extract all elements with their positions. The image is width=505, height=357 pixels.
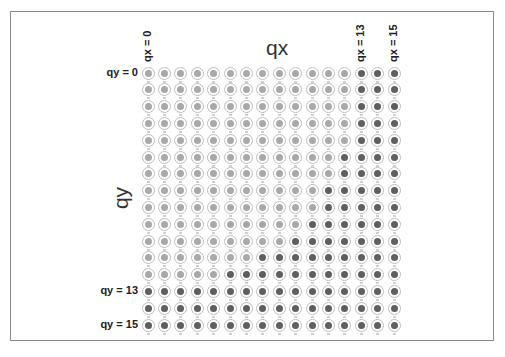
cell-index-mark: [147, 81, 150, 83]
grid-dot: [374, 271, 381, 278]
grid-dot: [292, 120, 299, 127]
cell-index-mark: [245, 232, 248, 234]
cell-index-mark: [376, 232, 379, 234]
grid-dot: [374, 170, 381, 177]
grid-cell: [289, 117, 302, 130]
cell-index-mark: [196, 148, 199, 150]
grid-cell: [338, 302, 351, 315]
grid-dot: [243, 204, 250, 211]
cell-index-mark: [245, 181, 248, 183]
grid-cell: [322, 201, 335, 214]
cell-index-mark: [327, 249, 330, 251]
cell-index-mark: [245, 333, 248, 335]
cell-index-mark: [147, 165, 150, 167]
grid-dot: [341, 103, 348, 110]
grid-cell: [338, 235, 351, 248]
grid-dot: [292, 70, 299, 77]
grid-cell: [371, 134, 384, 147]
grid-dot: [177, 238, 184, 245]
grid-cell: [306, 100, 319, 113]
grid-dot: [374, 204, 381, 211]
grid-cell: [306, 151, 319, 164]
grid-dot: [227, 204, 234, 211]
row-label: qy = 0: [68, 66, 138, 78]
cell-index-mark: [196, 215, 199, 217]
grid-dot: [325, 204, 332, 211]
cell-index-mark: [327, 181, 330, 183]
grid-dot: [276, 221, 283, 228]
grid-dot: [161, 120, 168, 127]
cell-index-mark: [360, 316, 363, 318]
cell-index-mark: [327, 131, 330, 133]
grid-dot: [243, 238, 250, 245]
grid-dot: [210, 204, 217, 211]
grid-cell: [207, 117, 220, 130]
grid-dot: [341, 238, 348, 245]
cell-index-mark: [196, 181, 199, 183]
cell-index-mark: [179, 333, 182, 335]
cell-index-mark: [163, 148, 166, 150]
grid-dot: [210, 322, 217, 329]
grid-dot: [292, 271, 299, 278]
grid-dot: [276, 70, 283, 77]
grid-dot: [358, 288, 365, 295]
cell-index-mark: [147, 265, 150, 267]
grid-cell: [355, 319, 368, 332]
grid-cell: [191, 151, 204, 164]
cell-index-mark: [212, 249, 215, 251]
grid-dot: [309, 322, 316, 329]
cell-index-mark: [327, 282, 330, 284]
grid-dot: [374, 70, 381, 77]
cell-index-mark: [343, 181, 346, 183]
cell-index-mark: [294, 333, 297, 335]
grid-dot: [358, 305, 365, 312]
cell-index-mark: [343, 114, 346, 116]
cell-index-mark: [311, 148, 314, 150]
grid-dot: [276, 288, 283, 295]
grid-dot: [276, 238, 283, 245]
cell-index-mark: [327, 97, 330, 99]
grid-cell: [273, 268, 286, 281]
cell-index-mark: [261, 282, 264, 284]
grid-dot: [391, 154, 398, 161]
grid-dot: [259, 103, 266, 110]
grid-cell: [240, 67, 253, 80]
cell-index-mark: [261, 181, 264, 183]
grid-cell: [338, 218, 351, 231]
grid-dot: [292, 288, 299, 295]
grid-cell: [142, 151, 155, 164]
grid-dot: [325, 305, 332, 312]
cell-index-mark: [327, 333, 330, 335]
cell-index-mark: [212, 282, 215, 284]
grid-cell: [371, 201, 384, 214]
grid-dot: [210, 137, 217, 144]
cell-index-mark: [163, 249, 166, 251]
grid-dot: [309, 305, 316, 312]
grid-dot: [309, 86, 316, 93]
grid-dot: [161, 305, 168, 312]
grid-dot: [161, 86, 168, 93]
grid-cell: [306, 285, 319, 298]
grid-dot: [194, 238, 201, 245]
grid-cell: [142, 67, 155, 80]
cell-index-mark: [261, 333, 264, 335]
grid-dot: [374, 86, 381, 93]
cell-index-mark: [343, 97, 346, 99]
grid-cell: [142, 201, 155, 214]
cell-index-mark: [376, 114, 379, 116]
cell-index-mark: [179, 114, 182, 116]
cell-index-mark: [376, 97, 379, 99]
cell-index-mark: [261, 97, 264, 99]
cell-index-mark: [343, 333, 346, 335]
grid-dot: [309, 170, 316, 177]
grid-dot: [325, 288, 332, 295]
cell-index-mark: [294, 215, 297, 217]
grid-dot: [374, 103, 381, 110]
cell-index-mark: [245, 114, 248, 116]
grid-cell: [322, 235, 335, 248]
grid-dot: [243, 305, 250, 312]
grid-cell: [191, 167, 204, 180]
grid-dot: [358, 103, 365, 110]
cell-index-mark: [360, 265, 363, 267]
cell-index-mark: [163, 81, 166, 83]
